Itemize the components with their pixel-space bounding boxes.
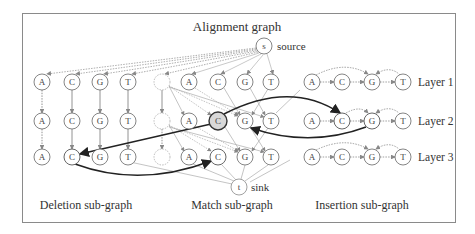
insertion-subgraph: A C G T A C G T A C G T: [304, 74, 411, 165]
node-T[interactable]: T: [400, 152, 406, 162]
deletion-layer-1: A C G T: [34, 74, 136, 90]
node-A[interactable]: A: [39, 152, 46, 162]
node-G[interactable]: G: [97, 116, 104, 126]
sink-node[interactable]: t: [231, 179, 247, 195]
node-G[interactable]: G: [242, 116, 249, 126]
node-G[interactable]: G: [97, 77, 104, 87]
node-C[interactable]: C: [215, 152, 221, 162]
match-layer-3: A C G T: [181, 149, 279, 165]
node-G[interactable]: G: [242, 77, 249, 87]
node-G[interactable]: G: [242, 152, 249, 162]
node-A[interactable]: A: [186, 77, 193, 87]
source-glyph: s: [262, 41, 266, 51]
node-G[interactable]: G: [97, 152, 104, 162]
node-C[interactable]: C: [339, 77, 345, 87]
node-A[interactable]: A: [309, 77, 316, 87]
source-label: source: [277, 40, 306, 52]
insertion-layer-2: A C G T: [304, 113, 411, 129]
node-A[interactable]: A: [309, 116, 316, 126]
node-T[interactable]: T: [268, 116, 274, 126]
deletion-layer-3: A C G T: [34, 149, 136, 165]
layer-label-3: Layer 3: [418, 151, 454, 164]
node-A[interactable]: A: [186, 116, 193, 126]
alignment-graph-canvas: Alignment graph: [0, 0, 475, 234]
layer-label-1: Layer 1: [418, 76, 454, 89]
node-C[interactable]: C: [339, 116, 345, 126]
insertion-layer-3: A C G T: [304, 149, 411, 165]
dashed-placeholder-node: [154, 149, 170, 165]
node-T[interactable]: T: [400, 77, 406, 87]
insertion-subgraph-label: Insertion sub-graph: [315, 198, 409, 212]
node-T[interactable]: T: [400, 116, 406, 126]
source-node[interactable]: s: [256, 38, 272, 54]
dashed-placeholder-node: [154, 113, 170, 129]
node-C[interactable]: C: [69, 152, 75, 162]
node-A[interactable]: A: [309, 152, 316, 162]
node-T[interactable]: T: [125, 152, 131, 162]
deletion-subgraph: A C G T A C G T A C G T: [34, 74, 136, 165]
node-G[interactable]: G: [369, 152, 376, 162]
node-T[interactable]: T: [125, 116, 131, 126]
node-C[interactable]: C: [69, 77, 75, 87]
node-T[interactable]: T: [125, 77, 131, 87]
deletion-subgraph-label: Deletion sub-graph: [40, 198, 132, 212]
node-A[interactable]: A: [39, 77, 46, 87]
node-T[interactable]: T: [268, 152, 274, 162]
node-C[interactable]: C: [339, 152, 345, 162]
node-A[interactable]: A: [39, 116, 46, 126]
node-C[interactable]: C: [69, 116, 75, 126]
node-G[interactable]: G: [369, 116, 376, 126]
node-G[interactable]: G: [369, 77, 376, 87]
dashed-placeholder-node: [154, 74, 170, 90]
match-layer-1: A C G T: [181, 74, 279, 90]
node-C[interactable]: C: [215, 116, 221, 126]
node-C[interactable]: C: [215, 77, 221, 87]
node-A[interactable]: A: [186, 152, 193, 162]
match-subgraph-label: Match sub-graph: [191, 198, 273, 212]
sink-label: sink: [251, 181, 270, 193]
graph-title: Alignment graph: [193, 19, 282, 34]
layer-label-2: Layer 2: [418, 115, 454, 128]
node-T[interactable]: T: [268, 77, 274, 87]
insertion-layer-1: A C G T: [304, 74, 411, 90]
insertion-edges: [316, 67, 400, 157]
deletion-layer-2: A C G T: [34, 113, 136, 129]
source-edges: [47, 48, 273, 74]
